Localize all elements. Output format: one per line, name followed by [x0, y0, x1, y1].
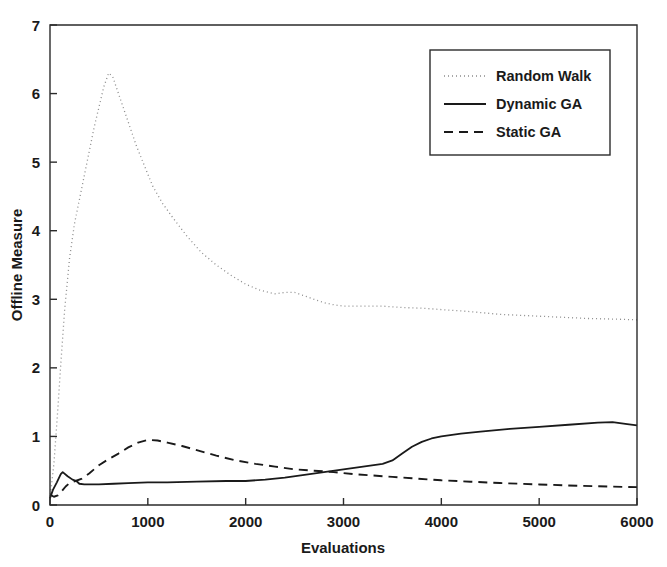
legend-label-random-walk: Random Walk	[496, 68, 592, 84]
series-line-static-ga	[50, 440, 637, 497]
legend-layer: Random WalkDynamic GAStatic GA	[430, 50, 610, 155]
x-tick-label: 0	[46, 513, 54, 530]
chart-figure: 010002000300040005000600001234567 Random…	[0, 0, 667, 567]
series-line-dynamic-ga	[50, 422, 637, 498]
x-tick-label: 5000	[522, 513, 555, 530]
y-tick-label: 5	[32, 154, 40, 171]
y-tick-label: 7	[32, 17, 40, 34]
y-tick-label: 1	[32, 428, 40, 445]
y-tick-label: 0	[32, 497, 40, 514]
x-tick-label: 6000	[620, 513, 653, 530]
y-tick-label: 4	[32, 222, 41, 239]
y-tick-label: 2	[32, 359, 40, 376]
x-tick-label: 4000	[425, 513, 458, 530]
legend-label-dynamic-ga: Dynamic GA	[496, 96, 583, 112]
x-axis-title: Evaluations	[301, 539, 385, 556]
y-tick-label: 3	[32, 291, 40, 308]
legend-label-static-ga: Static GA	[496, 124, 562, 140]
x-tick-label: 1000	[131, 513, 164, 530]
line-chart: 010002000300040005000600001234567 Random…	[0, 0, 667, 567]
x-tick-label: 2000	[229, 513, 262, 530]
x-tick-label: 3000	[327, 513, 360, 530]
y-tick-label: 6	[32, 85, 40, 102]
y-axis-title: Offline Measure	[8, 209, 25, 322]
